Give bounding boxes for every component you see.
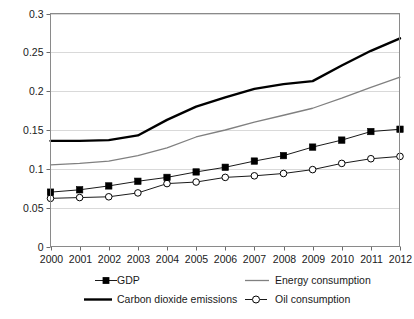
data-point-marker bbox=[164, 180, 171, 187]
x-tick-label: 2001 bbox=[69, 253, 93, 265]
data-point-marker bbox=[135, 190, 142, 197]
y-tick-labels: 00.050.10.150.20.250.3 bbox=[23, 8, 44, 253]
legend-label: GDP bbox=[117, 274, 140, 286]
data-point-marker bbox=[106, 183, 112, 189]
x-tick-label: 2002 bbox=[98, 253, 122, 265]
data-point-marker bbox=[222, 164, 228, 170]
y-tick-label: 0.25 bbox=[23, 46, 44, 58]
x-tick-label: 2007 bbox=[243, 253, 267, 265]
data-point-marker bbox=[280, 152, 286, 158]
x-tick-label: 2005 bbox=[185, 253, 209, 265]
series-line bbox=[51, 38, 401, 141]
data-point-marker bbox=[193, 169, 199, 175]
legend-item-oil[interactable]: Oil consumption bbox=[245, 293, 350, 305]
x-tick-label: 2003 bbox=[127, 253, 151, 265]
x-tick-marks bbox=[52, 247, 401, 251]
legend-label: Energy consumption bbox=[275, 274, 371, 286]
x-tick-label: 2006 bbox=[214, 253, 238, 265]
legend: GDPEnergy consumptionCarbon dioxide emis… bbox=[84, 274, 371, 305]
data-point-marker bbox=[164, 174, 170, 180]
series-energy-consumption bbox=[51, 77, 401, 165]
data-point-marker bbox=[368, 128, 374, 134]
data-point-marker bbox=[251, 173, 258, 180]
data-point-marker bbox=[76, 187, 82, 193]
legend-label: Oil consumption bbox=[275, 293, 350, 305]
data-point-marker bbox=[222, 174, 229, 181]
legend-item-co2[interactable]: Carbon dioxide emissions bbox=[84, 293, 237, 305]
data-point-marker bbox=[280, 170, 287, 177]
y-tick-label: 0.05 bbox=[23, 202, 44, 214]
x-tick-label: 2010 bbox=[331, 253, 355, 265]
y-tick-label: 0.15 bbox=[23, 124, 44, 136]
series-carbon-dioxide-emissions bbox=[51, 38, 401, 141]
x-tick-label: 2004 bbox=[156, 253, 180, 265]
x-tick-label: 2009 bbox=[302, 253, 326, 265]
x-tick-label: 2012 bbox=[389, 253, 413, 265]
series-line bbox=[51, 129, 401, 192]
data-point-marker bbox=[339, 137, 345, 143]
data-point-marker bbox=[135, 178, 141, 184]
x-tick-label: 2000 bbox=[40, 253, 64, 265]
data-point-marker bbox=[251, 158, 257, 164]
series-oil-consumption bbox=[47, 153, 403, 202]
data-point-marker bbox=[76, 194, 83, 201]
x-tick-label: 2011 bbox=[360, 253, 383, 265]
y-tick-label: 0.1 bbox=[29, 163, 44, 175]
y-tick-label: 0.3 bbox=[29, 8, 44, 20]
y-tick-label: 0.2 bbox=[29, 85, 44, 97]
legend-swatch-marker bbox=[103, 277, 110, 284]
x-tick-label: 2008 bbox=[273, 253, 297, 265]
data-point-marker bbox=[193, 179, 200, 186]
series-gdp bbox=[47, 126, 403, 195]
legend-item-energy[interactable]: Energy consumption bbox=[245, 274, 371, 286]
data-point-marker bbox=[105, 193, 112, 200]
line-chart: 00.050.10.150.20.250.3 20002001200220032… bbox=[0, 0, 414, 319]
y-tick-label: 0 bbox=[38, 241, 44, 253]
legend-label: Carbon dioxide emissions bbox=[117, 293, 237, 305]
data-point-marker bbox=[309, 144, 315, 150]
legend-item-gdp[interactable]: GDP bbox=[95, 274, 140, 286]
data-point-marker bbox=[309, 166, 316, 173]
chart-container: 00.050.10.150.20.250.3 20002001200220032… bbox=[0, 0, 414, 319]
plot-area bbox=[47, 38, 403, 201]
series-line bbox=[51, 77, 401, 165]
legend-swatch-marker bbox=[253, 296, 260, 303]
data-point-marker bbox=[368, 155, 375, 162]
x-tick-labels: 2000200120022003200420052006200720082009… bbox=[40, 253, 413, 265]
y-tick-marks bbox=[47, 15, 51, 248]
data-point-marker bbox=[338, 160, 345, 167]
